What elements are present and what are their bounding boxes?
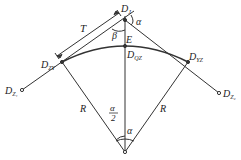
curve-start-point (60, 60, 63, 63)
label-prev-station: DZ₁ (4, 85, 18, 97)
radius-right-line (125, 62, 188, 152)
label-curve-start: DZY (40, 59, 56, 71)
label-center-angle: α (127, 125, 133, 136)
curve-diagram: DJ α β E DQZ DZY DYZ T DZ₁ DZ₂ R R α 2 α (0, 0, 241, 160)
label-curve-end: DYZ (188, 51, 204, 63)
center-point (123, 150, 126, 153)
label-intersection: DJ (120, 3, 131, 15)
deflection-angle-arc (131, 15, 133, 25)
label-curve-mid: DQZ (126, 49, 143, 61)
label-half-angle-den: 2 (111, 113, 116, 123)
label-beta: β (111, 30, 117, 41)
label-next-station: DZ₂ (222, 88, 236, 100)
prev-station-point (20, 88, 23, 91)
back-tangent-line (22, 11, 134, 90)
radius-left-line (62, 62, 125, 152)
intersection-point (123, 18, 126, 21)
label-deflection-angle: α (136, 16, 142, 27)
label-external-distance: E (125, 34, 132, 45)
label-tangent-length: T (80, 22, 87, 34)
tangent-dimension-line (57, 13, 119, 56)
label-radius-right: R (159, 103, 166, 114)
label-half-angle-num: α (110, 103, 115, 113)
next-station-point (217, 91, 220, 94)
label-radius-left: R (79, 103, 86, 114)
